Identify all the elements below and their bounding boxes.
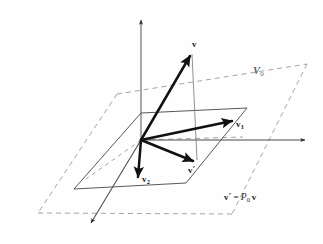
equation-operator: = — [231, 192, 240, 202]
equation-projection: v′=P0v — [224, 192, 256, 204]
equation-rhs: v — [250, 192, 256, 202]
label-vector-v-text: v — [192, 39, 197, 49]
label-vector-v-prime: v′ — [188, 165, 195, 175]
label-vector-v-prime-mark: ′ — [193, 164, 196, 174]
label-vector-v2-sub: 2 — [147, 178, 151, 185]
label-vector-v-prime-stem: v — [188, 165, 193, 175]
vector-projection-figure: v v′ v1 v2 V0 v′=P0v — [0, 0, 323, 244]
label-vector-v1-sub: 1 — [241, 123, 245, 130]
label-vector-v1: v1 — [236, 120, 244, 131]
label-plane-v0-stem: V — [253, 65, 260, 76]
label-plane-v0-sub: 0 — [260, 70, 264, 78]
label-vector-v2: v2 — [142, 175, 150, 186]
label-vector-v: v — [192, 40, 197, 49]
label-vector-v2-stem: v — [142, 174, 147, 184]
figure-canvas — [0, 0, 323, 244]
label-plane-v0: V0 — [253, 66, 264, 78]
figure-background — [0, 0, 323, 244]
equation-lhs-stem: v — [224, 192, 229, 202]
label-vector-v1-stem: v — [236, 119, 241, 129]
